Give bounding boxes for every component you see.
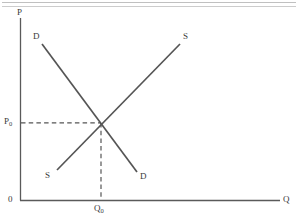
- equilibrium-quantity-letter: Q: [94, 203, 101, 213]
- supply-demand-figure: P Q 0 P0 Q0 D D S S: [0, 0, 298, 217]
- origin-label: 0: [8, 195, 13, 204]
- equilibrium-quantity-subscript: 0: [101, 207, 104, 214]
- supply-curve-bottom-label: S: [45, 171, 50, 180]
- demand-curve: [42, 44, 137, 172]
- demand-curve-bottom-label: D: [140, 172, 147, 181]
- supply-curve-top-label: S: [183, 32, 188, 41]
- demand-curve-top-label: D: [33, 32, 40, 41]
- y-axis-label: P: [17, 8, 22, 17]
- equilibrium-quantity-label: Q0: [94, 204, 104, 213]
- figure-canvas: [0, 0, 298, 217]
- x-axis-label: Q: [283, 195, 290, 204]
- supply-curve: [57, 44, 180, 170]
- equilibrium-price-subscript: 0: [9, 120, 12, 127]
- equilibrium-price-label: P0: [4, 117, 12, 126]
